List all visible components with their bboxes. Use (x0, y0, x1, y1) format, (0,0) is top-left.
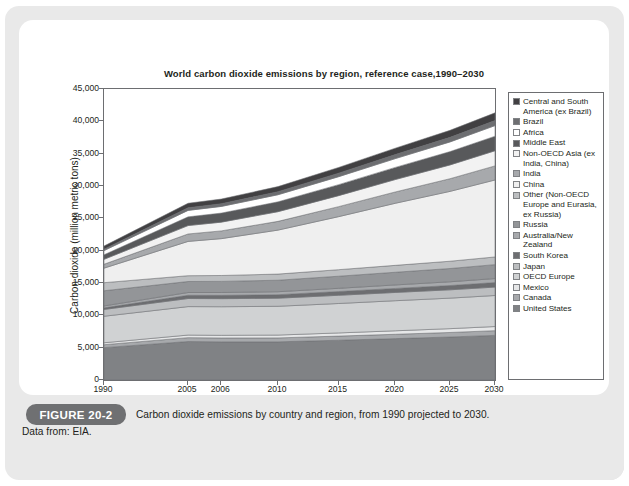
legend-item-label: Other (Non-OECD Europe and Eurasia, ex R… (523, 190, 601, 219)
legend-item-label: OECD Europe (523, 272, 575, 282)
y-tick-label: 10,000 (23, 309, 99, 319)
legend-item[interactable]: South Korea (513, 251, 601, 261)
figure-number-badge: FIGURE 20-2 (26, 404, 126, 425)
legend-swatch (513, 98, 520, 105)
x-tick-mark (187, 381, 188, 385)
x-tick-mark (220, 381, 221, 385)
y-tick-label: 0 (23, 374, 99, 384)
legend-swatch (513, 263, 520, 270)
legend-swatch (513, 294, 520, 301)
y-tick-label: 35,000 (23, 148, 99, 158)
legend-item[interactable]: Mexico (513, 283, 601, 293)
legend-swatch (513, 232, 520, 239)
y-tick-label: 30,000 (23, 180, 99, 190)
x-tick-label: 2010 (255, 384, 299, 394)
screenshot-root: World carbon dioxide emissions by region… (0, 0, 629, 486)
x-tick-mark (394, 381, 395, 385)
legend-item-label: United States (523, 304, 572, 314)
legend-item[interactable]: Russia (513, 220, 601, 230)
x-tick-label: 2006 (198, 384, 242, 394)
legend-item[interactable]: China (513, 180, 601, 190)
legend-item[interactable]: Japan (513, 262, 601, 272)
legend-swatch (513, 273, 520, 280)
legend-item-label: South Korea (523, 251, 568, 261)
x-tick-label: 2015 (316, 384, 360, 394)
x-tick-label: 2020 (372, 384, 416, 394)
legend-swatch (513, 181, 520, 188)
legend-swatch (513, 118, 520, 125)
legend-item-label: Non-OECD Asia (ex India, China) (523, 149, 601, 168)
legend-item-label: Russia (523, 220, 548, 230)
y-tick-label: 20,000 (23, 245, 99, 255)
y-tick-label: 15,000 (23, 277, 99, 287)
chart-title: World carbon dioxide emissions by region… (139, 68, 509, 79)
chart-legend: Central and South America (ex Brazil)Bra… (508, 92, 604, 380)
y-tick-label: 5,000 (23, 342, 99, 352)
legend-swatch (513, 150, 520, 157)
legend-item-label: China (523, 180, 544, 190)
x-tick-mark (449, 381, 450, 385)
legend-item[interactable]: Australia/New Zealand (513, 231, 601, 250)
legend-item-label: Mexico (523, 283, 549, 293)
legend-item[interactable]: Middle East (513, 138, 601, 148)
legend-swatch (513, 284, 520, 291)
legend-swatch (513, 305, 520, 312)
x-tick-label: 2025 (427, 384, 471, 394)
legend-item-label: Australia/New Zealand (523, 231, 601, 250)
legend-swatch (513, 192, 520, 199)
x-tick-mark (277, 381, 278, 385)
legend-item[interactable]: United States (513, 304, 601, 314)
y-tick-label: 45,000 (23, 83, 99, 93)
x-tick-mark (338, 381, 339, 385)
legend-item-label: Canada (523, 293, 551, 303)
legend-item-label: Africa (523, 128, 544, 138)
legend-item[interactable]: Central and South America (ex Brazil) (513, 97, 601, 116)
legend-swatch (513, 252, 520, 259)
figure-caption: Carbon dioxide emissions by country and … (136, 408, 606, 421)
stacked-area-svg (104, 89, 495, 380)
legend-swatch (513, 129, 520, 136)
y-tick-label: 40,000 (23, 115, 99, 125)
legend-item-label: Middle East (523, 138, 565, 148)
legend-item-label: Central and South America (ex Brazil) (523, 97, 601, 116)
legend-item[interactable]: Africa (513, 128, 601, 138)
legend-item-label: India (523, 169, 541, 179)
x-tick-mark (103, 381, 104, 385)
plot-area (103, 88, 496, 381)
legend-item[interactable]: Brazil (513, 117, 601, 127)
legend-item[interactable]: OECD Europe (513, 272, 601, 282)
legend-item[interactable]: Canada (513, 293, 601, 303)
figure-source: Data from: EIA. (22, 426, 322, 437)
legend-item[interactable]: India (513, 169, 601, 179)
legend-item-label: Japan (523, 262, 545, 272)
figure-card: World carbon dioxide emissions by region… (19, 20, 609, 395)
y-axis-ticks: 05,00010,00015,00020,00025,00030,00035,0… (19, 80, 99, 390)
legend-swatch (513, 221, 520, 228)
x-tick-label: 1990 (81, 384, 125, 394)
x-tick-mark (494, 381, 495, 385)
legend-swatch (513, 170, 520, 177)
x-tick-label: 2030 (472, 384, 516, 394)
legend-item[interactable]: Other (Non-OECD Europe and Eurasia, ex R… (513, 190, 601, 219)
legend-item[interactable]: Non-OECD Asia (ex India, China) (513, 149, 601, 168)
legend-item-label: Brazil (523, 117, 543, 127)
y-tick-label: 25,000 (23, 212, 99, 222)
legend-swatch (513, 140, 520, 147)
